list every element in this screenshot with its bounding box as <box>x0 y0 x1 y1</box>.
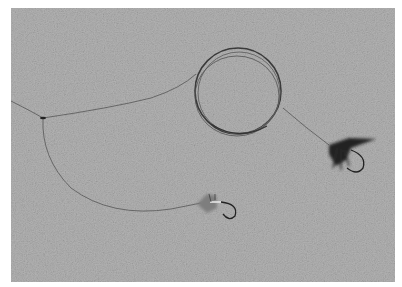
dropper-knot <box>40 117 46 120</box>
photo-scene <box>11 8 395 282</box>
photograph <box>11 8 395 282</box>
